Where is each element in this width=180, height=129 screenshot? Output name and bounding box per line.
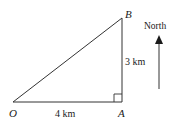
vertex-label-o: O	[9, 107, 17, 119]
side-label-oa: 4 km	[55, 108, 76, 119]
north-label: North	[144, 21, 166, 31]
vertex-label-b: B	[125, 8, 132, 20]
side-ob-hypotenuse	[13, 18, 122, 102]
side-label-ab: 3 km	[125, 56, 146, 67]
vertex-label-a: A	[117, 107, 125, 119]
right-angle-marker	[114, 94, 122, 102]
north-arrow-icon	[155, 35, 163, 44]
triangle-diagram: B O A 4 km 3 km North	[0, 0, 180, 129]
